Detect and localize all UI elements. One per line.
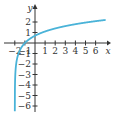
log-function-graph: −2−112345621−1−2−3−4−5−6xy (0, 0, 115, 118)
y-axis-label: y (26, 3, 33, 13)
x-axis-label: x (105, 46, 110, 56)
x-tick-label: 5 (83, 46, 89, 56)
y-tick-label: 1 (25, 28, 31, 38)
y-tick-label: −2 (18, 59, 31, 69)
y-tick-label: 2 (25, 17, 31, 27)
x-axis-arrow-icon (107, 41, 111, 46)
y-tick-label: −6 (18, 101, 32, 111)
x-tick-label: 1 (42, 46, 48, 56)
x-tick-label: 2 (52, 46, 58, 56)
x-tick-label: 3 (62, 46, 68, 56)
y-tick-label: −4 (18, 80, 32, 90)
y-tick-label: −5 (18, 91, 32, 101)
y-axis-arrow-icon (33, 4, 38, 9)
x-tick-label: 6 (93, 46, 99, 56)
y-tick-label: −3 (18, 70, 32, 80)
tick-labels: −2−112345621−1−2−3−4−5−6xy (8, 3, 110, 111)
x-tick-label: 4 (73, 46, 79, 56)
